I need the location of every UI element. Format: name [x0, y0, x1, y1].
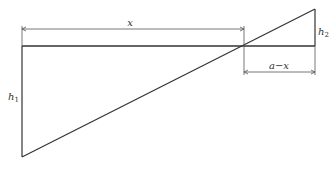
label-h1: h1 — [8, 91, 19, 104]
label-h2: h2 — [318, 26, 329, 39]
label-a-minus-x: a−x — [269, 60, 289, 71]
label-x: x — [127, 17, 133, 28]
triangle-diagram: x a−x h1 h2 — [0, 0, 333, 174]
diagonal-line — [22, 9, 315, 157]
